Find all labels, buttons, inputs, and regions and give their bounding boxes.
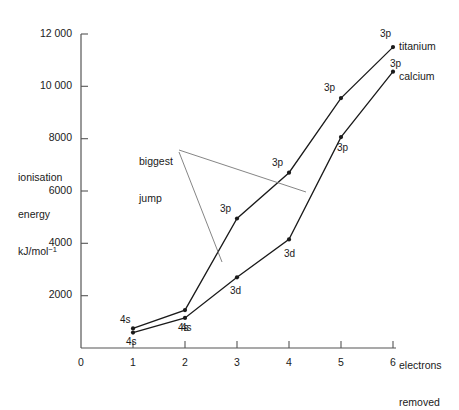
x-tick-label-1: 1	[123, 356, 143, 368]
x-tick-label-5: 5	[331, 356, 351, 368]
y-axis-ticks	[81, 34, 88, 296]
point-label-calcium-2: 4s	[181, 322, 192, 334]
point-label-calcium-5: 3p	[337, 142, 348, 154]
x-tick-label-2: 2	[175, 356, 195, 368]
y-tick-label-10000: 10 000	[10, 79, 72, 91]
y-tick-label-8000: 8000	[10, 131, 72, 143]
annotation-line1: biggest	[139, 155, 173, 167]
y-tick-label-2000: 2000	[10, 288, 72, 300]
series-label-titanium: titanium	[399, 40, 436, 52]
x-tick-label-4: 4	[279, 356, 299, 368]
x-axis-title: electrons removed	[399, 334, 442, 410]
x-axis-title-line1: electrons	[399, 359, 442, 371]
point-label-titanium-4: 3p	[272, 157, 283, 169]
point-label-calcium-4: 3d	[284, 248, 295, 260]
y-axis-title-line3: kJ/mol−1	[18, 245, 62, 257]
annotation-line2: jump	[139, 192, 173, 204]
series-label-calcium: calcium	[399, 70, 435, 82]
annotation-leader-lines	[179, 150, 306, 262]
point-label-calcium-3: 3d	[230, 285, 241, 297]
point-label-titanium-6: 3p	[380, 28, 391, 40]
y-axis-unit-exponent: −1	[48, 245, 57, 254]
y-tick-label-12000: 12 000	[10, 27, 72, 39]
y-axis-title: ionisation energy kJ/mol−1	[18, 146, 62, 282]
y-axis-title-line1: ionisation	[18, 171, 62, 183]
point-label-titanium-5: 3p	[324, 82, 335, 94]
x-tick-label-0: 0	[71, 356, 91, 368]
y-axis-unit-base: kJ/mol	[18, 245, 48, 257]
x-axis-title-line2: removed	[399, 396, 442, 408]
x-tick-label-3: 3	[227, 356, 247, 368]
point-label-titanium-3: 3p	[220, 203, 231, 215]
y-axis-title-line2: energy	[18, 208, 62, 220]
point-label-calcium-1: 4s	[126, 336, 137, 348]
point-label-titanium-1: 4s	[120, 314, 131, 326]
x-axis-ticks	[133, 341, 393, 348]
point-label-calcium-6: 3p	[390, 58, 401, 70]
annotation-biggest-jump: biggest jump	[139, 130, 173, 229]
